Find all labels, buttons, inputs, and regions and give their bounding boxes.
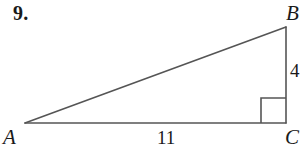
triangle-side-hypotenuse (25, 27, 286, 123)
right-angle-marker-icon (261, 98, 286, 123)
right-triangle-diagram (0, 0, 307, 152)
problem-number: 9. (13, 3, 28, 23)
vertex-label-c: C (285, 127, 299, 148)
vertex-label-b: B (286, 3, 299, 24)
side-length-label-base: 11 (157, 128, 175, 147)
vertex-label-a: A (3, 127, 16, 148)
side-length-label-vertical: 4 (290, 61, 300, 80)
problem-figure-page: 9. A B C 11 4 (0, 0, 307, 152)
